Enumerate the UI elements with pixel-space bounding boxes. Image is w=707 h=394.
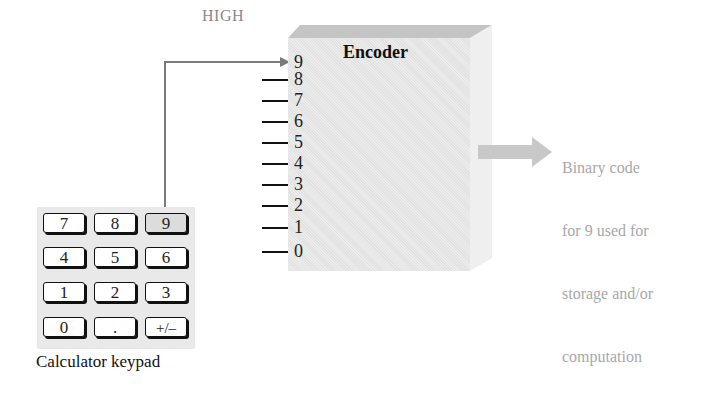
- output-description: Binary code for 9 used for storage and/o…: [562, 115, 653, 388]
- encoder-side-face: [470, 25, 492, 271]
- encoder-input-5: 5: [294, 133, 308, 151]
- key-6[interactable]: 6: [145, 247, 187, 267]
- key-7[interactable]: 7: [43, 213, 85, 233]
- encoder-title: Encoder: [343, 42, 408, 63]
- encoder-input-2: 2: [294, 196, 308, 214]
- encoder-input-8: 8: [294, 70, 308, 88]
- encoder-input-7: 7: [294, 91, 308, 109]
- key-2[interactable]: 2: [94, 282, 136, 302]
- input-line-0: [262, 251, 288, 253]
- key-5[interactable]: 5: [94, 247, 136, 267]
- input-line-3: [262, 184, 288, 186]
- output-line-1: Binary code: [562, 157, 653, 178]
- output-line-2: for 9 used for: [562, 220, 653, 241]
- output-line-3: storage and/or: [562, 283, 653, 304]
- input-line-2: [262, 205, 288, 207]
- key-3[interactable]: 3: [145, 282, 187, 302]
- encoder-top-face: [288, 25, 492, 38]
- encoder-input-1: 1: [294, 218, 308, 236]
- key-1[interactable]: 1: [43, 282, 85, 302]
- encoder-input-4: 4: [294, 154, 308, 172]
- key-4[interactable]: 4: [43, 247, 85, 267]
- input-line-1: [262, 227, 288, 229]
- key-9[interactable]: 9: [145, 213, 187, 233]
- input-line-8: [262, 79, 288, 81]
- input-line-6: [262, 121, 288, 123]
- input-line-4: [262, 163, 288, 165]
- key-8[interactable]: 8: [94, 213, 136, 233]
- keypad-caption: Calculator keypad: [36, 352, 160, 372]
- output-arrow-icon: [478, 137, 552, 167]
- high-signal-label: HIGH: [202, 7, 244, 25]
- encoder-input-0: 0: [294, 242, 308, 260]
- key-decimal[interactable]: .: [94, 317, 136, 337]
- key-plus-minus[interactable]: +/–: [145, 317, 187, 337]
- input-line-5: [262, 142, 288, 144]
- high-signal-wire: [165, 62, 282, 212]
- encoder-input-3: 3: [294, 175, 308, 193]
- key-0[interactable]: 0: [43, 317, 85, 337]
- output-line-4: computation: [562, 346, 653, 367]
- encoder-input-6: 6: [294, 112, 308, 130]
- encoder-block: [288, 38, 470, 271]
- input-line-7: [262, 100, 288, 102]
